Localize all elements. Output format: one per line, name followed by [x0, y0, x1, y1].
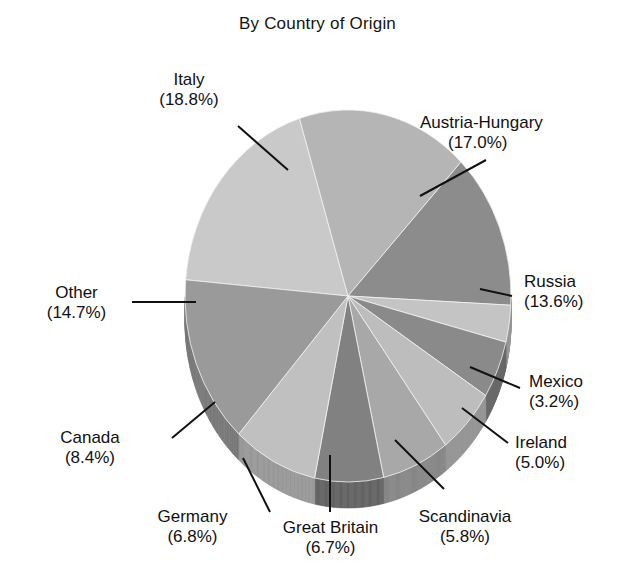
slice-label-name: Great Britain	[258, 518, 403, 538]
slice-label-percent: (6.8%)	[130, 527, 255, 547]
slice-label-name: Other	[14, 283, 139, 303]
slice-label-austria-hungary: Austria-Hungary (17.0%)	[420, 113, 543, 153]
slice-label-other: Other (14.7%)	[14, 283, 139, 323]
slice-label-name: Scandinavia	[395, 507, 535, 527]
slice-label-percent: (5.0%)	[515, 453, 567, 473]
slice-label-name: Germany	[130, 507, 255, 527]
slice-label-name: Canada	[30, 428, 150, 448]
slice-label-name: Austria-Hungary	[420, 113, 543, 133]
slice-label-percent: (13.6%)	[524, 292, 584, 312]
slice-label-germany: Germany (6.8%)	[130, 507, 255, 547]
slice-label-percent: (5.8%)	[395, 527, 535, 547]
slice-label-percent: (6.7%)	[258, 538, 403, 558]
slice-label-ireland: Ireland (5.0%)	[515, 433, 567, 473]
slice-label-percent: (3.2%)	[529, 392, 583, 412]
leader-line	[172, 402, 215, 438]
slice-label-mexico: Mexico (3.2%)	[529, 372, 583, 412]
slice-label-percent: (8.4%)	[30, 448, 150, 468]
slice-label-name: Russia	[524, 272, 584, 292]
slice-label-scandinavia: Scandinavia (5.8%)	[395, 507, 535, 547]
slice-label-italy: Italy (18.8%)	[124, 70, 254, 110]
slice-label-percent: (14.7%)	[14, 303, 139, 323]
slice-label-name: Mexico	[529, 372, 583, 392]
slice-label-name: Italy	[124, 70, 254, 90]
slice-label-percent: (17.0%)	[448, 133, 543, 153]
slice-label-canada: Canada (8.4%)	[30, 428, 150, 468]
slice-label-percent: (18.8%)	[124, 90, 254, 110]
slice-label-great-britain: Great Britain (6.7%)	[258, 518, 403, 558]
slice-label-russia: Russia (13.6%)	[524, 272, 584, 312]
slice-label-name: Ireland	[515, 433, 567, 453]
pie-slices	[185, 110, 511, 482]
pie-chart-figure: By Country of Origin Italy (18.8%) Austr…	[0, 0, 635, 585]
